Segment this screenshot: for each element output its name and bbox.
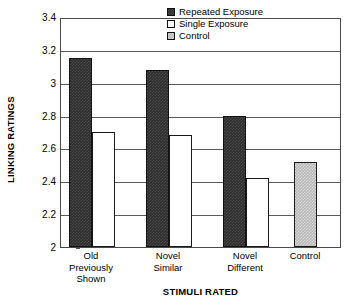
legend-item-label: Single Exposure: [179, 18, 248, 29]
x-axis-tick-label: Novel Similar: [128, 250, 208, 273]
y-axis-tick-label: 3.4: [22, 13, 56, 23]
legend-swatch-icon: [167, 32, 175, 40]
y-axis-tick-label: 3.2: [22, 46, 56, 56]
x-axis-tick-labels: Old Previously ShownNovel SimilarNovel D…: [60, 250, 341, 290]
y-axis-title: LINKING RATINGS: [1, 60, 19, 220]
y-axis-tick-mark: [76, 248, 80, 249]
chart-screenshot: LINKING RATINGS 3.43.232.82.62.42.22 Rep…: [0, 0, 356, 301]
legend-item: Single Exposure: [167, 18, 263, 29]
y-axis-tick-label: 2.2: [22, 210, 56, 220]
bars-layer: [61, 19, 340, 247]
chart-legend: Repeated ExposureSingle ExposureControl: [167, 6, 263, 41]
bar-noveldif-repeated: [223, 116, 246, 247]
legend-item-label: Control: [179, 30, 210, 41]
y-axis-tick-label: 2.8: [22, 112, 56, 122]
legend-swatch-icon: [167, 20, 175, 28]
x-axis-tick-label: Control: [265, 250, 345, 262]
y-axis-tick-label: 2.4: [22, 177, 56, 187]
y-axis-tick-label: 2.6: [22, 144, 56, 154]
bar-old-single: [92, 132, 115, 247]
bar-control-control: [294, 162, 317, 247]
x-axis-title: STIMULI RATED: [60, 286, 341, 297]
bar-novelsim-single: [169, 135, 192, 247]
legend-item-label: Repeated Exposure: [179, 6, 263, 17]
plot-area: [60, 18, 341, 248]
y-axis-tick-label: 3: [22, 79, 56, 89]
bar-novelsim-repeated: [146, 70, 169, 247]
legend-swatch-icon: [167, 8, 175, 16]
legend-item: Repeated Exposure: [167, 6, 263, 17]
x-axis-tick-label: Old Previously Shown: [51, 250, 131, 285]
legend-item: Control: [167, 30, 263, 41]
bar-old-repeated: [69, 58, 92, 247]
bar-noveldif-single: [246, 178, 269, 247]
